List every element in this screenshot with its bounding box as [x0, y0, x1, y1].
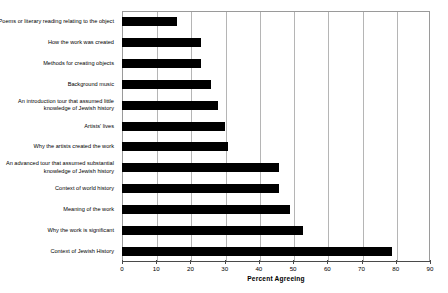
- x-tick-label-50: 50: [283, 264, 303, 273]
- bar: [122, 163, 279, 172]
- bar-row: [122, 59, 430, 68]
- category-label: Meaning of the work: [0, 206, 118, 213]
- bar: [122, 122, 225, 131]
- chart-screenshot: Poems or literary reading relating to th…: [0, 0, 448, 293]
- category-label: Background music: [0, 81, 118, 88]
- bar-row: [122, 184, 430, 193]
- category-label: Poems or literary reading relating to th…: [0, 18, 118, 25]
- bar: [122, 142, 228, 151]
- bar-row: [122, 163, 430, 172]
- bar: [122, 80, 211, 89]
- category-label: Context of world history: [0, 185, 118, 192]
- bar-row: [122, 38, 430, 47]
- bar-row: [122, 101, 430, 110]
- category-labels: Poems or literary reading relating to th…: [0, 11, 118, 262]
- x-tick-label-90: 90: [420, 264, 440, 273]
- bar: [122, 205, 290, 214]
- x-tick-label-10: 10: [146, 264, 166, 273]
- category-label: An advanced tour that assumed substantia…: [0, 160, 118, 175]
- bar: [122, 226, 303, 235]
- bars-container: [122, 11, 430, 262]
- bar-row: [122, 17, 430, 26]
- x-tick-label-0: 0: [112, 264, 132, 273]
- bar-row: [122, 247, 430, 256]
- bar-row: [122, 226, 430, 235]
- bar-row: [122, 205, 430, 214]
- bar: [122, 184, 279, 193]
- bar: [122, 38, 201, 47]
- category-label: An introduction tour that assumed little…: [0, 98, 118, 113]
- bar: [122, 101, 218, 110]
- category-label: Methods for creating objects: [0, 60, 118, 67]
- x-tick-label-30: 30: [215, 264, 235, 273]
- x-tick-label-70: 70: [352, 264, 372, 273]
- category-label: Why the artists created the work: [0, 143, 118, 150]
- bar: [122, 59, 201, 68]
- x-tick-label-80: 80: [386, 264, 406, 273]
- bar-row: [122, 142, 430, 151]
- bar: [122, 17, 177, 26]
- category-label: Artists' lives: [0, 123, 118, 130]
- category-label: How the work was created: [0, 39, 118, 46]
- bar: [122, 247, 392, 256]
- x-tick-label-20: 20: [180, 264, 200, 273]
- x-axis-title: Percent Agreeing: [122, 275, 430, 282]
- category-label: Context of Jewish History: [0, 248, 118, 255]
- bar-row: [122, 122, 430, 131]
- bar-row: [122, 80, 430, 89]
- x-tick-label-60: 60: [317, 264, 337, 273]
- category-label: Why the work is significant: [0, 227, 118, 234]
- x-tick-label-40: 40: [249, 264, 269, 273]
